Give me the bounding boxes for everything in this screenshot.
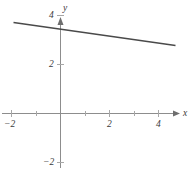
x-tick-label--2: −2 (4, 120, 16, 130)
y-tick-label-2: 2 (49, 60, 54, 70)
y-tick-label-4: 4 (49, 11, 54, 21)
x-tick-label-4: 4 (156, 120, 161, 130)
x-axis-arrow-icon (173, 111, 180, 117)
x-axis-label: x (183, 109, 187, 119)
y-axis-arrow-icon (58, 17, 64, 25)
plot-canvas (0, 0, 195, 175)
coordinate-graph-figure: −2 2 4 4 2 −2 x y (0, 0, 195, 175)
y-axis-label: y (63, 4, 67, 14)
y-tick-label--2: −2 (43, 158, 55, 168)
x-tick-label-2: 2 (107, 120, 112, 130)
plotted-line (14, 22, 176, 45)
